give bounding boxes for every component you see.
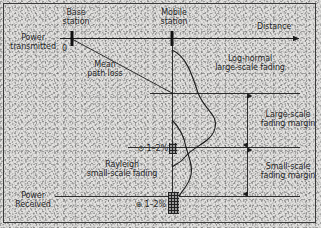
base-station-label: Base station (48, 8, 104, 26)
outage-upper-label: ⊙ 1–2% (124, 144, 168, 153)
mobile-station-tick (171, 31, 174, 46)
large-scale-margin-label: Large-scale fading margin (258, 110, 318, 128)
rayleigh-fading-label: Rayleigh small-scale fading (76, 160, 168, 178)
small-scale-margin-label: Small-scale fading margin (258, 162, 318, 180)
outage-lower-label: ⊕ 1–2% (122, 200, 166, 209)
distance-axis-label: Distance (248, 22, 300, 31)
outage-hatch-block-upper (169, 143, 177, 154)
origin-label: 0 (62, 44, 74, 53)
power-transmitted-label: Power transmitted (2, 33, 64, 51)
mobile-station-label: Mobile station (146, 8, 202, 26)
outage-hatch-block-lower (168, 192, 179, 214)
log-normal-fading-label: Log-normal large-scale fading (202, 54, 298, 72)
mean-path-loss-label: Mean path loss (76, 60, 134, 78)
power-received-label: Power Received (2, 191, 64, 209)
figure-canvas: Base station Mobile station Distance Pow… (0, 0, 321, 228)
